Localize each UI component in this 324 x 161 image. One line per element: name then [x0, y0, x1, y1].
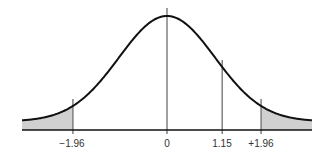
tick-labels: −1.96 0 1.15 +1.96: [59, 138, 274, 149]
tick-label-115: 1.15: [212, 138, 232, 149]
normal-distribution-chart: −1.96 0 1.15 +1.96: [0, 0, 324, 161]
marker-lines: [73, 8, 261, 134]
tick-label-pos196: +1.96: [248, 138, 274, 149]
tick-label-neg196: −1.96: [59, 138, 85, 149]
tick-label-zero: 0: [164, 138, 170, 149]
